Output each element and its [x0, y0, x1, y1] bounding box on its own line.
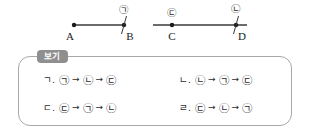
point-b-label: B: [126, 30, 133, 42]
arrow-right-icon: →: [71, 74, 81, 84]
option-3-step-3: ㉡: [106, 100, 116, 115]
option-key-1: ㄱ.: [43, 72, 55, 86]
arrow-right-icon: →: [207, 74, 217, 84]
option-sequence-2: ㉡ → ㉠ → ㉢: [195, 72, 252, 87]
option-key-4: ㄹ.: [179, 100, 191, 114]
option-2-step-2: ㉠: [219, 72, 229, 87]
arrow-right-icon: →: [231, 74, 241, 84]
options-box: 보기 ㄱ. ㉠ → ㉡ → ㉢ ㄴ. ㉡ → ㉠ → ㉢: [18, 56, 292, 126]
segment-ab: A B ㉠: [66, 4, 134, 42]
option-item-3[interactable]: ㄷ. ㉢ → ㉠ → ㉡: [19, 100, 155, 115]
marker-icon-second: ㉡: [231, 3, 241, 14]
point-a-dot: [72, 23, 76, 27]
marker-icon-first: ㉠: [119, 4, 129, 15]
option-3-step-2: ㉠: [83, 100, 93, 115]
option-2-step-3: ㉢: [242, 72, 252, 87]
option-key-3: ㄷ.: [43, 100, 55, 114]
point-c-label: C: [168, 30, 175, 42]
arrow-right-icon: →: [95, 74, 105, 84]
option-1-step-3: ㉢: [106, 72, 116, 87]
arrow-right-icon: →: [71, 102, 81, 112]
point-d-label: D: [238, 30, 246, 42]
arrow-right-icon: →: [95, 102, 105, 112]
option-4-step-1: ㉢: [195, 100, 205, 115]
option-2-step-1: ㉡: [195, 72, 205, 87]
arrow-right-icon: →: [207, 102, 217, 112]
option-sequence-4: ㉢ → ㉡ → ㉠: [195, 100, 252, 115]
option-3-step-1: ㉢: [59, 100, 69, 115]
options-grid: ㄱ. ㉠ → ㉡ → ㉢ ㄴ. ㉡ → ㉠ → ㉢: [19, 57, 291, 125]
option-1-step-2: ㉡: [83, 72, 93, 87]
option-item-1[interactable]: ㄱ. ㉠ → ㉡ → ㉢: [19, 72, 155, 87]
option-1-step-1: ㉠: [59, 72, 69, 87]
option-item-4[interactable]: ㄹ. ㉢ → ㉡ → ㉠: [155, 100, 291, 115]
worksheet-page: A B ㉠ C D ㉢ ㉡ 보기: [0, 0, 310, 134]
option-4-step-2: ㉡: [219, 100, 229, 115]
option-key-2: ㄴ.: [179, 72, 191, 86]
segment-cd: C D ㉢ ㉡: [153, 3, 247, 42]
option-sequence-1: ㉠ → ㉡ → ㉢: [59, 72, 116, 87]
marker-icon-third: ㉢: [167, 7, 177, 18]
arrow-right-icon: →: [231, 102, 241, 112]
option-4-step-3: ㉠: [242, 100, 252, 115]
point-c-dot: [170, 23, 174, 27]
point-a-label: A: [66, 30, 74, 42]
option-sequence-3: ㉢ → ㉠ → ㉡: [59, 100, 116, 115]
geometry-diagram: A B ㉠ C D ㉢ ㉡: [0, 0, 310, 48]
option-item-2[interactable]: ㄴ. ㉡ → ㉠ → ㉢: [155, 72, 291, 87]
